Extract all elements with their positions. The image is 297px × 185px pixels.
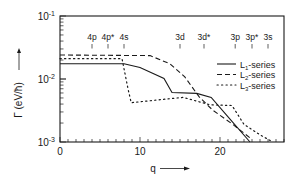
x-tick-label: 10 [134, 146, 146, 157]
series-line-l1-series [60, 64, 250, 142]
y-axis-label: Γ (eV/ħ) [13, 82, 24, 118]
legend-label: L1-series [240, 60, 276, 71]
annotation-label: 3p [230, 32, 240, 42]
x-tick-label: 0 [57, 146, 63, 157]
x-arrow-head-icon [184, 167, 190, 171]
annotation-label: 4p* [102, 32, 115, 42]
shell-annotations: 4p4p*4s3d3d*3p3p*3s [87, 32, 272, 49]
x-tick-label: 20 [214, 146, 226, 157]
annotation-label: 4p [87, 32, 97, 42]
x-axis: 01020 [57, 137, 284, 157]
annotation-label: 3d [175, 32, 185, 42]
annotation-label: 3s [264, 32, 273, 42]
series-line-l2-series [60, 55, 252, 139]
y-arrow-head-icon [17, 48, 21, 53]
legend-label: L2-series [240, 70, 276, 81]
y-axis: 10-110-210-3 [38, 10, 66, 148]
legend: L1-seriesL2-seriesL3-series [217, 60, 276, 92]
chart: 01020 10-110-210-3 4p4p*4s3d3d*3p3p*3s L… [0, 0, 297, 185]
y-tick-label: 10-3 [38, 136, 55, 148]
annotation-label: 3d* [198, 32, 211, 42]
legend-label: L3-series [240, 81, 276, 92]
y-tick-label: 10-2 [38, 73, 55, 85]
chart-canvas: 01020 10-110-210-3 4p4p*4s3d3d*3p3p*3s L… [0, 0, 297, 185]
annotation-label: 4s [120, 32, 129, 42]
y-tick-label: 10-1 [38, 10, 55, 22]
x-axis-title: q [150, 163, 190, 174]
x-axis-label: q [150, 163, 156, 174]
y-axis-title: Γ (eV/ħ) [13, 48, 24, 118]
annotation-label: 3p* [246, 32, 259, 42]
